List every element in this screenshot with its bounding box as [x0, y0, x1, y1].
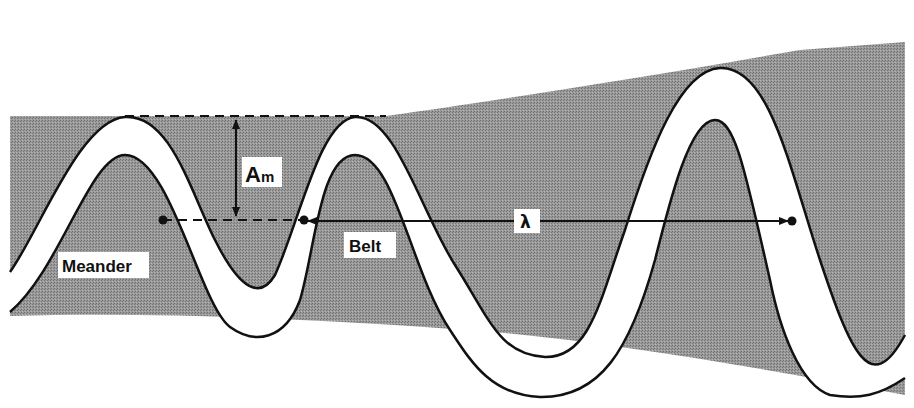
centre-point-2	[300, 216, 309, 225]
meander-label: Meander	[62, 257, 132, 276]
meander-diagram: Am λ Belt Meander	[0, 0, 914, 408]
belt-label: Belt	[349, 237, 381, 256]
wavelength-label: λ	[520, 212, 531, 232]
centre-point-3	[788, 217, 797, 226]
centre-point-1	[159, 216, 168, 225]
